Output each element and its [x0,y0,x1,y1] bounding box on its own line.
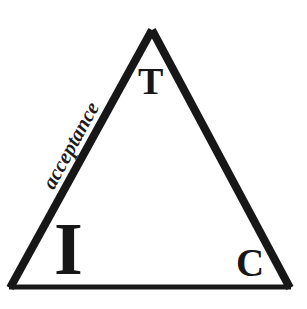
vertex-label-bottom-right: C [236,243,264,282]
triangle-right-edge [152,30,290,288]
acceptance-triangle-diagram: T I C acceptance [0,0,307,309]
vertex-label-apex: T [138,62,163,100]
vertex-label-bottom-left: I [54,212,83,286]
